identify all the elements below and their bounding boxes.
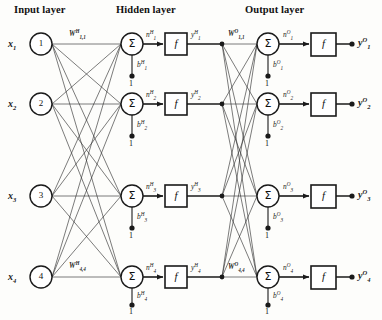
output-sum-glyph-4: Σ [258, 270, 278, 283]
input-node-number-2: 2 [31, 98, 51, 108]
hidden-to-output-connections [222, 44, 257, 277]
hidden-weight-label-first: WH1,1 [69, 28, 86, 40]
hidden-net-label-3: nH3 [146, 181, 156, 193]
output-net-arrows [279, 44, 309, 277]
output-activation-glyph-3: f [311, 189, 336, 201]
nn-diagram-figure: Input layer Hidden layer Output layer x1… [0, 0, 382, 320]
hidden-output-label-1: yH1 [191, 29, 201, 41]
hidden-sum-glyph-2: Σ [122, 97, 142, 110]
network-output-label-1: yO1 [358, 36, 370, 50]
hidden-activation-glyph-3: f [165, 189, 187, 201]
hidden-net-label-2: nH2 [146, 89, 156, 101]
input-node-number-3: 3 [31, 190, 51, 200]
hidden-output-label-2: yH2 [191, 89, 201, 101]
output-net-label-4: nO4 [283, 262, 293, 274]
hidden-bias-label-1: bH1 [137, 59, 147, 71]
input-to-hidden-connections [52, 44, 121, 277]
network-output-label-3: yO3 [358, 188, 370, 202]
output-bias-source-1: 1 [265, 79, 269, 88]
hidden-bias-source-2: 1 [129, 139, 133, 148]
output-bias-label-2: bO2 [273, 119, 283, 131]
hidden-activation-glyph-4: f [165, 270, 187, 282]
hidden-bias-label-2: bH2 [137, 119, 147, 131]
output-bias-source-2: 1 [265, 139, 269, 148]
output-bias-label-3: bO3 [273, 211, 283, 223]
hidden-net-arrows [143, 44, 163, 277]
output-net-label-1: nO1 [283, 29, 293, 41]
network-output-label-4: yO4 [358, 269, 370, 283]
output-activation-boxes [311, 33, 336, 289]
hidden-activation-output-lines [187, 44, 222, 277]
hidden-activation-glyph-1: f [165, 37, 187, 49]
output-net-label-3: nO3 [283, 181, 293, 193]
input-node-circles [30, 33, 52, 288]
hidden-bias-source-4: 1 [129, 307, 133, 316]
input-label-x4: x4 [8, 271, 16, 284]
hidden-activation-glyph-2: f [165, 97, 187, 109]
hidden-bias-source-1: 1 [129, 79, 133, 88]
output-result-lines [336, 44, 352, 277]
input-label-x1: x1 [8, 38, 16, 51]
input-label-x2: x2 [8, 98, 16, 111]
hidden-output-label-3: yH3 [191, 181, 201, 193]
hidden-sum-glyph-3: Σ [122, 189, 142, 202]
output-activation-glyph-4: f [311, 270, 336, 282]
output-activation-glyph-2: f [311, 97, 336, 109]
hidden-bias-label-4: bH4 [137, 290, 147, 302]
input-node-number-1: 1 [31, 38, 51, 48]
layer-title-input: Input layer [14, 4, 66, 15]
output-weight-label-first: WO1,1 [228, 28, 245, 40]
output-bias-label-4: bO4 [273, 290, 283, 302]
hidden-bias-label-3: bH3 [137, 211, 147, 223]
hidden-net-label-4: nH4 [146, 262, 156, 274]
output-bias-source-3: 1 [265, 231, 269, 240]
hidden-sum-glyph-4: Σ [122, 270, 142, 283]
output-sum-glyph-2: Σ [258, 97, 278, 110]
hidden-output-tap-dots [220, 42, 225, 280]
output-bias-source-4: 1 [265, 307, 269, 316]
output-terminal-dots [349, 41, 354, 279]
output-weight-label-last: WO4,4 [228, 261, 245, 273]
output-bias-label-1: bO1 [273, 59, 283, 71]
hidden-net-label-1: nH1 [146, 29, 156, 41]
output-net-label-2: nO2 [283, 89, 293, 101]
layer-title-hidden: Hidden layer [116, 4, 176, 15]
layer-title-output: Output layer [245, 4, 304, 15]
input-node-number-4: 4 [31, 271, 51, 281]
network-output-label-2: yO2 [358, 96, 370, 110]
output-sum-glyph-1: Σ [258, 37, 278, 50]
hidden-output-label-4: yH4 [191, 262, 201, 274]
hidden-sum-glyph-1: Σ [122, 37, 142, 50]
hidden-activation-boxes [165, 33, 187, 288]
output-sum-glyph-3: Σ [258, 189, 278, 202]
input-label-x3: x3 [8, 190, 16, 203]
hidden-bias-source-3: 1 [129, 231, 133, 240]
hidden-weight-label-last: WH4,4 [69, 260, 86, 272]
output-activation-glyph-1: f [311, 37, 336, 49]
